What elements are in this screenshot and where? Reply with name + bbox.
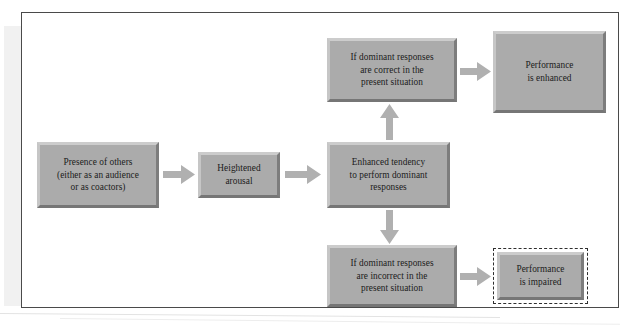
arrow-correct-to-enhanced xyxy=(460,62,491,81)
node-dominant-responses-incorrect-label: If dominant responses are incorrect in t… xyxy=(350,257,433,295)
figure-page: Presence of others (either as an audienc… xyxy=(0,0,637,328)
node-dominant-responses-correct[interactable]: If dominant responses are correct in the… xyxy=(327,38,457,102)
scan-shadow-left xyxy=(4,26,22,306)
arrow-incorrect-to-impaired xyxy=(460,267,491,286)
node-heightened-arousal-label: Heightened arousal xyxy=(217,162,260,187)
arrow-arousal-to-tendency xyxy=(285,165,321,184)
arrow-presence-to-arousal xyxy=(163,165,195,184)
node-presence-of-others-label: Presence of others (either as an audienc… xyxy=(57,156,139,194)
arrow-tendency-to-incorrect xyxy=(380,210,399,244)
scan-line-bottom-secondary xyxy=(60,318,620,325)
node-heightened-arousal[interactable]: Heightened arousal xyxy=(198,152,280,198)
node-presence-of-others[interactable]: Presence of others (either as an audienc… xyxy=(37,142,159,208)
node-enhanced-tendency[interactable]: Enhanced tendency to perform dominant re… xyxy=(327,142,450,208)
node-performance-enhanced[interactable]: Performance is enhanced xyxy=(493,31,606,113)
node-performance-impaired-label: Performance is impaired xyxy=(516,263,564,288)
node-dominant-responses-correct-label: If dominant responses are correct in the… xyxy=(350,51,433,89)
node-performance-enhanced-label: Performance is enhanced xyxy=(525,59,573,84)
node-enhanced-tendency-label: Enhanced tendency to perform dominant re… xyxy=(350,156,428,194)
node-dominant-responses-incorrect[interactable]: If dominant responses are incorrect in t… xyxy=(327,245,457,307)
node-performance-impaired[interactable]: Performance is impaired xyxy=(497,252,584,300)
arrow-tendency-to-correct xyxy=(380,104,399,140)
